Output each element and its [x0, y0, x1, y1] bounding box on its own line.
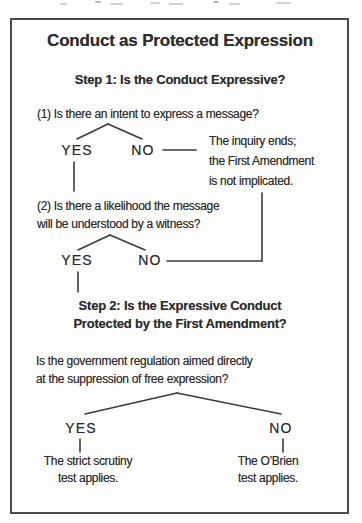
page-edge-text-fragment	[110, 3, 123, 5]
obrien-line1: The O’Brien	[218, 453, 318, 470]
inquiry-ends-line3: is not implicated.	[209, 171, 314, 191]
obrien-line2: test applies.	[218, 470, 318, 487]
inquiry-ends-line2: the First Amendment	[209, 151, 314, 171]
obrien-outcome: The O’Brien test applies.	[218, 453, 318, 487]
page-edge-text-fragment	[229, 3, 240, 5]
step1-question2-line2: will be understood by a witness?	[37, 215, 219, 233]
step2-heading-line2: Protected by the First Amendment?	[10, 315, 350, 333]
step2-question-line2: at the suppression of free expression?	[36, 370, 253, 388]
page-edge-text-fragment	[95, 1, 101, 3]
step1-question1: (1) Is there an intent to express a mess…	[37, 105, 259, 123]
scanned-page: Conduct as Protected Expression Step 1: …	[0, 0, 362, 523]
inquiry-ends-outcome: The inquiry ends; the First Amendment is…	[209, 131, 314, 191]
branch2-no-label: NO	[128, 252, 172, 268]
step1-question2: (2) Is there a likelihood the message wi…	[37, 197, 219, 233]
step2-heading: Step 2: Is the Expressive Conduct Protec…	[10, 297, 350, 333]
page-edge-text-fragment	[169, 3, 183, 5]
step1-question2-line1: (2) Is there a likelihood the message	[37, 197, 219, 215]
page-edge-text-fragment	[213, 1, 219, 3]
page-edge-text-fragment	[60, 3, 67, 5]
strict-scrutiny-line2: test applies.	[38, 470, 138, 487]
step2-question-line1: Is the government regulation aimed direc…	[36, 352, 253, 370]
step1-heading: Step 1: Is the Conduct Expressive?	[10, 71, 350, 89]
page-edge-text-fragment	[276, 2, 291, 4]
inquiry-ends-line1: The inquiry ends;	[209, 131, 314, 151]
step2-question: Is the government regulation aimed direc…	[36, 352, 253, 388]
step2-heading-line1: Step 2: Is the Expressive Conduct	[10, 297, 350, 315]
page-edge-text-fragment	[150, 2, 160, 4]
strict-scrutiny-line1: The strict scrutiny	[38, 453, 138, 470]
branch1-no-label: NO	[121, 142, 165, 158]
strict-scrutiny-outcome: The strict scrutiny test applies.	[38, 453, 138, 487]
branch3-yes-label: YES	[59, 420, 103, 436]
figure-title: Conduct as Protected Expression	[10, 31, 350, 51]
branch1-yes-label: YES	[55, 142, 99, 158]
branch2-yes-label: YES	[55, 252, 99, 268]
branch3-no-label: NO	[259, 420, 303, 436]
